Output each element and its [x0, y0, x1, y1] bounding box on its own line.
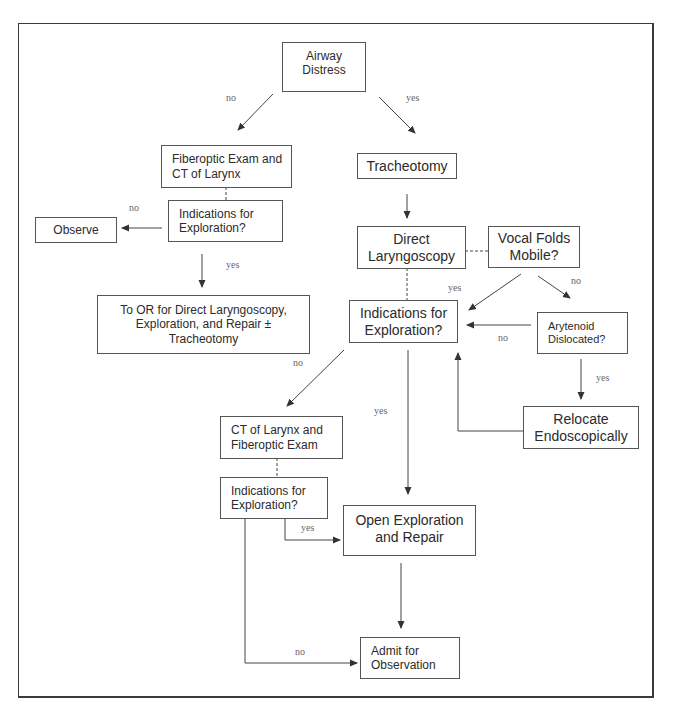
edge-label-airway-no: no: [226, 92, 236, 103]
node-label: Relocate Endoscopically: [534, 411, 627, 445]
node-indications-bottom: Indications for Exploration?: [220, 477, 328, 519]
node-observe: Observe: [35, 217, 117, 243]
node-fiberoptic-ct: Fiberoptic Exam and CT of Larynx: [161, 145, 292, 188]
node-label: Admit for Observation: [371, 644, 436, 673]
edge-label-indic-left-yes: yes: [226, 259, 239, 270]
edge-label-indic-main-yes: yes: [374, 405, 387, 416]
node-label: Indications for Exploration?: [231, 484, 306, 513]
node-label: Fiberoptic Exam and CT of Larynx: [172, 152, 282, 181]
node-label: Observe: [53, 223, 98, 237]
node-label: Arytenoid Dislocated?: [548, 320, 605, 346]
edge-label-arytenoid-yes: yes: [596, 372, 609, 383]
node-label: CT of Larynx and Fiberoptic Exam: [231, 423, 323, 452]
node-open-exploration: Open Exploration and Repair: [343, 505, 476, 556]
edge-label-indic-left-no: no: [129, 202, 139, 213]
node-vocal-folds-mobile: Vocal Folds Mobile?: [488, 226, 580, 268]
node-indications-left: Indications for Exploration?: [168, 200, 283, 242]
node-label: Tracheotomy: [366, 158, 447, 175]
node-label: Indications for Exploration?: [179, 207, 254, 236]
node-ct-fiberoptic: CT of Larynx and Fiberoptic Exam: [220, 416, 343, 459]
edge-label-airway-yes: yes: [406, 92, 419, 103]
node-relocate-endoscopically: Relocate Endoscopically: [523, 406, 639, 449]
node-direct-laryngoscopy: Direct Laryngoscopy: [357, 226, 466, 269]
node-label: Direct Laryngoscopy: [368, 231, 455, 265]
node-admit-observation: Admit for Observation: [360, 637, 460, 679]
edge-label-arytenoid-no: no: [498, 332, 508, 343]
node-label: Indications for Exploration?: [360, 305, 447, 339]
node-indications-main: Indications for Exploration?: [349, 300, 458, 343]
node-to-or: To OR for Direct Laryngoscopy, Explorati…: [97, 295, 310, 354]
node-label: Open Exploration and Repair: [355, 512, 463, 546]
edge-label-indic-bottom-yes: yes: [301, 522, 314, 533]
edge-label-vocal-no: no: [571, 275, 581, 286]
edge-label-indic-main-no: no: [293, 357, 303, 368]
node-tracheotomy: Tracheotomy: [357, 153, 457, 179]
edge-label-vocal-yes: yes: [448, 282, 461, 293]
edge-label-indic-bottom-no: no: [295, 646, 305, 657]
node-airway-distress: Airway Distress: [282, 42, 366, 92]
node-label: To OR for Direct Laryngoscopy, Explorati…: [120, 303, 287, 346]
node-arytenoid-dislocated: Arytenoid Dislocated?: [537, 312, 628, 354]
flowchart-edges: [0, 0, 678, 721]
node-label: Airway Distress: [302, 49, 345, 78]
node-label: Vocal Folds Mobile?: [498, 230, 570, 264]
